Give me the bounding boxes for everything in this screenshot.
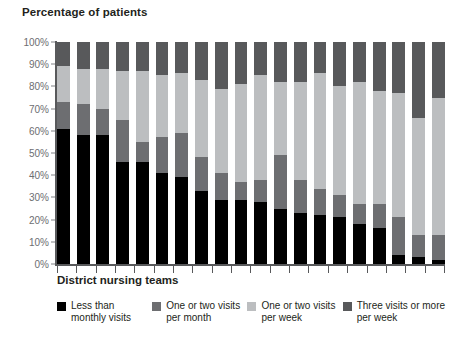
x-axis-tick-mark xyxy=(367,266,368,273)
chart-legend: Less than monthly visitsOne or two visit… xyxy=(57,300,457,336)
square-swatch-icon xyxy=(343,302,352,311)
stacked-bar[interactable] xyxy=(215,42,228,264)
x-axis-tick-mark xyxy=(289,266,290,273)
x-axis-tick-mark xyxy=(231,266,232,273)
bar-segment xyxy=(412,257,425,264)
stacked-bar[interactable] xyxy=(274,42,287,264)
bar-segment xyxy=(235,200,248,264)
bar-segment xyxy=(215,200,228,264)
x-axis-tick-mark xyxy=(328,266,329,273)
stacked-bar[interactable] xyxy=(254,42,267,264)
bar-segment xyxy=(432,260,445,264)
stacked-bar[interactable] xyxy=(136,42,149,264)
bar-segment xyxy=(57,66,70,102)
bar-segment xyxy=(235,42,248,84)
x-axis-tick-mark xyxy=(76,266,77,273)
stacked-bar[interactable] xyxy=(294,42,307,264)
stacked-bar[interactable] xyxy=(353,42,366,264)
stacked-bar[interactable] xyxy=(412,42,425,264)
bar-segment xyxy=(175,73,188,133)
y-axis-tick-label: 70% xyxy=(0,103,49,114)
bar-segment xyxy=(333,195,346,217)
y-axis-tick-label: 30% xyxy=(0,192,49,203)
bar-segment xyxy=(314,189,327,216)
bar-segment xyxy=(254,42,267,75)
bar-segment xyxy=(294,180,307,213)
x-axis-label: District nursing teams xyxy=(57,274,178,286)
bar-segment xyxy=(294,42,307,82)
bar-segment xyxy=(215,173,228,200)
legend-label: Three visits or more per week xyxy=(357,300,445,323)
bar-segment xyxy=(57,102,70,129)
bar-segment xyxy=(274,82,287,155)
bar-segment xyxy=(96,135,109,264)
y-axis-tick-label: 10% xyxy=(0,236,49,247)
bar-segment xyxy=(77,69,90,105)
x-axis-tick-mark xyxy=(347,266,348,273)
stacked-bar[interactable] xyxy=(77,42,90,264)
bar-segment xyxy=(254,180,267,202)
bar-segment xyxy=(353,204,366,224)
bar-segment xyxy=(175,177,188,264)
bar-segment xyxy=(175,42,188,73)
y-axis-tick-label: 80% xyxy=(0,81,49,92)
bar-segment xyxy=(57,129,70,264)
y-axis-tick-mark xyxy=(51,108,55,109)
bar-segment xyxy=(392,255,405,264)
bar-segment xyxy=(412,42,425,117)
bar-segment xyxy=(274,42,287,82)
stacked-bar[interactable] xyxy=(432,42,445,264)
bar-segment xyxy=(215,42,228,89)
legend-item[interactable]: One or two visits per week xyxy=(247,300,342,336)
bar-segment xyxy=(412,235,425,257)
stacked-bar[interactable] xyxy=(392,42,405,264)
x-axis-tick-mark xyxy=(386,266,387,273)
bar-segment xyxy=(136,42,149,71)
stacked-bar[interactable] xyxy=(156,42,169,264)
y-axis-tick-mark xyxy=(51,219,55,220)
bar-segment xyxy=(57,42,70,66)
stacked-bar[interactable] xyxy=(195,42,208,264)
bar-segment xyxy=(412,118,425,236)
x-axis-tick-mark xyxy=(270,266,271,273)
bar-segment xyxy=(235,84,248,182)
bar-segment xyxy=(333,42,346,86)
bar-segment xyxy=(274,209,287,265)
plot-area xyxy=(57,42,445,264)
stacked-bar[interactable] xyxy=(57,42,70,264)
stacked-bar[interactable] xyxy=(333,42,346,264)
y-axis-tick-label: 40% xyxy=(0,170,49,181)
stacked-bar[interactable] xyxy=(373,42,386,264)
x-axis-tick-mark xyxy=(115,266,116,273)
bar-segment xyxy=(77,104,90,135)
bar-segment xyxy=(314,42,327,73)
bar-segment xyxy=(235,182,248,200)
y-axis-tick-label: 0% xyxy=(0,259,49,270)
legend-item[interactable]: One or two visits per month xyxy=(152,300,247,336)
x-axis-tick-group xyxy=(57,266,445,273)
x-axis-tick-mark xyxy=(192,266,193,273)
bar-segment xyxy=(156,137,169,173)
legend-item[interactable]: Less than monthly visits xyxy=(57,300,152,336)
bar-segment xyxy=(136,71,149,142)
stacked-bar[interactable] xyxy=(314,42,327,264)
bar-segment xyxy=(116,120,129,162)
stacked-bar[interactable] xyxy=(96,42,109,264)
y-axis-tick-mark xyxy=(51,153,55,154)
y-axis-tick-mark xyxy=(51,86,55,87)
x-axis-tick-mark xyxy=(212,266,213,273)
stacked-bar[interactable] xyxy=(235,42,248,264)
x-axis-tick-mark xyxy=(425,266,426,273)
legend-label: One or two visits per week xyxy=(261,300,335,323)
y-axis-tick-mark xyxy=(51,264,55,265)
bar-segment xyxy=(215,89,228,173)
legend-item[interactable]: Three visits or more per week xyxy=(343,300,457,336)
y-axis-tick-label: 100% xyxy=(0,37,49,48)
stacked-bar[interactable] xyxy=(175,42,188,264)
stacked-bar[interactable] xyxy=(116,42,129,264)
bar-segment xyxy=(96,69,109,109)
bar-segment xyxy=(333,86,346,195)
bar-segment xyxy=(136,142,149,162)
square-swatch-icon xyxy=(57,302,66,311)
bar-segment xyxy=(373,42,386,91)
